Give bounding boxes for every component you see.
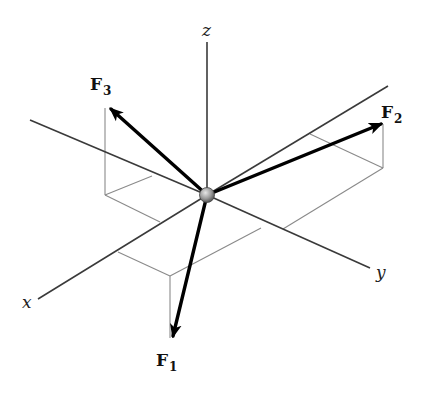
f1-base-guide-a xyxy=(118,252,170,276)
y-axis-label: y xyxy=(375,262,386,282)
f3-vector-arrow xyxy=(111,109,207,195)
f3-label: F3 xyxy=(90,74,111,98)
f2-label-main: F2 xyxy=(381,102,402,126)
f1-vector-arrow xyxy=(173,195,207,336)
f2-base-guide-b xyxy=(283,168,383,229)
f3-base-guide-a xyxy=(105,176,152,195)
x-axis-label: x xyxy=(22,292,32,312)
f1-label: F1 xyxy=(156,350,177,374)
force-vectors xyxy=(111,109,381,336)
f1-base-guide-b xyxy=(170,228,261,276)
f3-label-main: F3 xyxy=(90,74,111,98)
f2-vector-arrow xyxy=(207,124,381,195)
x-axis xyxy=(38,195,207,299)
negative-y-axis xyxy=(30,120,207,195)
f1-label-main: F1 xyxy=(156,350,177,374)
force-diagram: z y x F3 F2 F1 xyxy=(0,0,423,393)
z-axis-label: z xyxy=(201,20,212,40)
y-axis xyxy=(207,195,370,268)
f3-base-guide-b xyxy=(105,195,160,222)
f2-label: F2 xyxy=(381,102,402,126)
negative-x-axis xyxy=(207,86,388,195)
particle-sphere-icon xyxy=(200,188,215,203)
axes xyxy=(30,42,388,299)
